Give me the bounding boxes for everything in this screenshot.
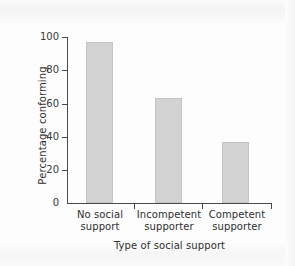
y-tick-20: 20 bbox=[0, 170, 67, 171]
bar-chart-plot: 100 80 60 40 20 0 No social bbox=[0, 0, 295, 266]
y-tick-label-0: 0 bbox=[53, 198, 59, 208]
y-axis-title: Percentage conforming bbox=[37, 46, 48, 206]
y-tick-80: 80 bbox=[0, 70, 67, 71]
y-tick-label-40: 40 bbox=[46, 132, 59, 142]
x-category-label-1-line2: supporter bbox=[130, 221, 208, 233]
y-tick-100: 100 bbox=[0, 37, 67, 38]
x-category-label-1-line1: Incompetent bbox=[137, 209, 202, 220]
x-axis-title: Type of social support bbox=[67, 240, 272, 251]
y-tick-label-20: 20 bbox=[46, 165, 59, 175]
x-category-label-0-line2: support bbox=[62, 221, 138, 233]
x-category-label-0-line1: No social bbox=[77, 209, 123, 220]
bar-no-social-support bbox=[86, 42, 113, 203]
x-category-label-2-line1: Competent bbox=[209, 209, 266, 220]
x-axis-line bbox=[67, 203, 272, 204]
y-tick-label-60: 60 bbox=[46, 99, 59, 109]
bar-incompetent-supporter bbox=[155, 98, 182, 203]
bar-competent-supporter bbox=[222, 142, 249, 203]
y-tick-60: 60 bbox=[0, 104, 67, 105]
y-tick-label-80: 80 bbox=[46, 65, 59, 75]
y-tick-label-100: 100 bbox=[40, 32, 59, 42]
y-tick-40: 40 bbox=[0, 137, 67, 138]
y-axis-line bbox=[67, 37, 68, 204]
x-category-label-2: Competent supporter bbox=[199, 209, 275, 233]
y-tick-0: 0 bbox=[0, 203, 67, 204]
chart-screenshot: 100 80 60 40 20 0 No social bbox=[0, 0, 295, 266]
x-category-label-1: Incompetent supporter bbox=[130, 209, 208, 233]
x-category-label-2-line2: supporter bbox=[199, 221, 275, 233]
x-category-label-0: No social support bbox=[62, 209, 138, 233]
